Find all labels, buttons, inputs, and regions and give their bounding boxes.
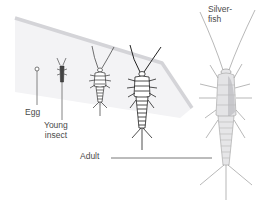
young-insect-label-line2: insect — [44, 131, 68, 141]
silverfish-label-line2: fish — [208, 15, 232, 25]
adult-silverfish-illustration — [199, 10, 255, 200]
adult-label-text: Adult — [80, 151, 99, 161]
young-insect-label: Young insect — [44, 121, 68, 140]
adult-label: Adult — [80, 152, 99, 162]
diagram-artwork — [0, 0, 265, 205]
silverfish-life-cycle-diagram: Egg Young insect Adult Silver- fish — [0, 0, 265, 205]
silverfish-label: Silver- fish — [208, 5, 232, 24]
egg-label-text: Egg — [25, 107, 40, 117]
egg-label: Egg — [25, 108, 40, 118]
shelf-band — [15, 18, 192, 118]
